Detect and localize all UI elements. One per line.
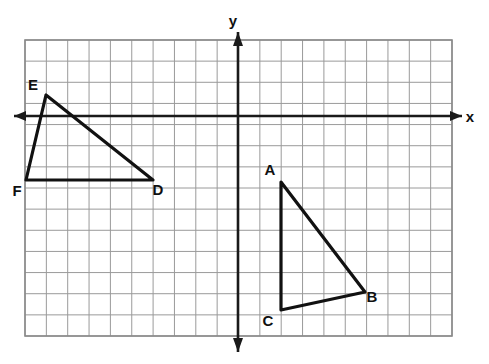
vertex-label-e: E [28,76,38,93]
geometry-diagram-svg: E F D A B C x y [0,0,489,364]
x-axis-label: x [466,108,475,125]
coordinate-plane-figure: E F D A B C x y [0,0,489,364]
vertex-label-f: F [12,182,21,199]
y-axis-label: y [229,12,238,29]
vertex-label-c: C [263,312,274,329]
figure-background [0,0,489,364]
vertex-label-b: B [367,288,378,305]
vertex-label-d: D [153,181,164,198]
vertex-label-a: A [265,161,276,178]
